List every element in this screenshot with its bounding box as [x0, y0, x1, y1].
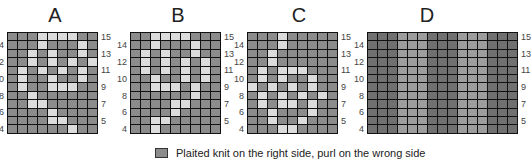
grid-d: [367, 32, 518, 134]
stitch-cell: [28, 100, 37, 107]
stitch-cell: [181, 33, 190, 40]
stitch-cell: [408, 58, 417, 65]
stitch-cell: [171, 83, 180, 90]
stitch-cell: [278, 125, 287, 132]
stitch-cell: [8, 41, 17, 48]
stitch-cell: [258, 125, 267, 132]
row-number-label: 12: [354, 58, 364, 67]
stitch-cell: [388, 50, 397, 57]
stitch-cell: [8, 33, 17, 40]
stitch-cell: [38, 83, 47, 90]
stitch-cell: [448, 41, 457, 48]
stitch-cell: [171, 41, 180, 48]
stitch-cell: [68, 92, 77, 99]
stitch-cell: [498, 67, 507, 74]
stitch-cell: [458, 83, 467, 90]
stitch-cell: [478, 33, 487, 40]
stitch-cell: [438, 92, 447, 99]
stitch-cell: [38, 109, 47, 116]
stitch-cell: [58, 92, 67, 99]
stitch-cell: [18, 100, 27, 107]
stitch-cell: [28, 50, 37, 57]
stitch-cell: [8, 100, 17, 107]
stitch-cell: [428, 83, 437, 90]
stitch-cell: [388, 75, 397, 82]
stitch-cell: [38, 33, 47, 40]
stitch-cell: [498, 100, 507, 107]
row-number-label: 9: [341, 83, 346, 92]
stitch-cell: [258, 100, 267, 107]
stitch-cell: [488, 100, 497, 107]
stitch-cell: [18, 109, 27, 116]
stitch-cell: [278, 58, 287, 65]
stitch-cell: [278, 33, 287, 40]
stitch-cell: [408, 117, 417, 124]
stitch-cell: [278, 109, 287, 116]
row-number-label: 12: [234, 58, 244, 67]
stitch-cell: [201, 100, 210, 107]
stitch-cell: [398, 109, 407, 116]
stitch-cell: [161, 109, 170, 116]
stitch-cell: [418, 67, 427, 74]
stitch-cell: [181, 50, 190, 57]
stitch-cell: [418, 41, 427, 48]
stitch-cell: [488, 41, 497, 48]
stitch-cell: [171, 50, 180, 57]
stitch-cell: [468, 75, 477, 82]
stitch-cell: [131, 83, 140, 90]
stitch-cell: [318, 41, 327, 48]
stitch-cell: [18, 83, 27, 90]
stitch-cell: [68, 83, 77, 90]
stitch-cell: [18, 50, 27, 57]
stitch-cell: [398, 33, 407, 40]
stitch-cell: [508, 109, 517, 116]
stitch-cell: [151, 100, 160, 107]
stitch-cell: [171, 109, 180, 116]
stitch-cell: [508, 67, 517, 74]
stitch-cell: [8, 67, 17, 74]
stitch-cell: [448, 33, 457, 40]
stitch-cell: [328, 117, 337, 124]
stitch-cell: [201, 33, 210, 40]
stitch-cell: [398, 92, 407, 99]
stitch-cell: [88, 117, 97, 124]
stitch-cell: [58, 58, 67, 65]
stitch-cell: [318, 50, 327, 57]
stitch-cell: [478, 100, 487, 107]
stitch-cell: [308, 33, 317, 40]
stitch-cell: [78, 109, 87, 116]
stitch-cell: [498, 83, 507, 90]
row-number-label: 4: [239, 125, 244, 134]
stitch-cell: [141, 41, 150, 48]
stitch-cell: [171, 117, 180, 124]
stitch-cell: [38, 117, 47, 124]
row-number-label: 13: [224, 50, 234, 59]
row-number-label: 12: [117, 58, 127, 67]
stitch-cell: [181, 67, 190, 74]
stitch-cell: [58, 75, 67, 82]
stitch-cell: [508, 117, 517, 124]
stitch-cell: [408, 100, 417, 107]
chart-title-d: D: [412, 4, 442, 27]
stitch-cell: [318, 109, 327, 116]
stitch-cell: [368, 33, 377, 40]
stitch-cell: [201, 58, 210, 65]
row-number-label: 15: [521, 33, 531, 42]
stitch-cell: [488, 109, 497, 116]
stitch-cell: [258, 33, 267, 40]
stitch-cell: [328, 58, 337, 65]
stitch-cell: [308, 58, 317, 65]
stitch-cell: [141, 117, 150, 124]
stitch-cell: [191, 117, 200, 124]
stitch-cell: [68, 75, 77, 82]
stitch-cell: [211, 33, 220, 40]
stitch-cell: [78, 41, 87, 48]
stitch-cell: [161, 58, 170, 65]
stitch-cell: [201, 117, 210, 124]
stitch-cell: [78, 117, 87, 124]
stitch-cell: [211, 75, 220, 82]
stitch-cell: [398, 41, 407, 48]
stitch-cell: [498, 33, 507, 40]
stitch-cell: [488, 92, 497, 99]
stitch-cell: [368, 117, 377, 124]
